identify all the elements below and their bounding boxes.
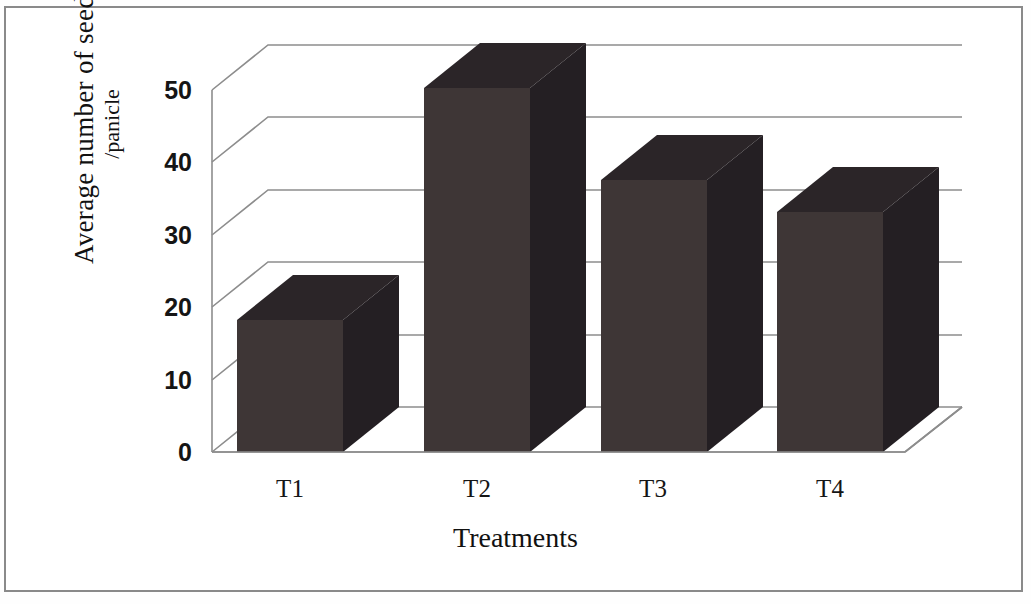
x-tick-label-t1: T1 [235,475,345,503]
y-tick-label-50: 50 [134,76,192,105]
bar-T3-front [601,180,707,452]
x-tick-label-t2: T2 [422,475,532,503]
y-axis-title-line1: Average number of seeds [69,0,99,289]
bars-group [237,43,939,452]
x-tick-label-t3: T3 [598,475,708,503]
bar-T4[interactable] [777,167,939,452]
gridline-40 [212,117,962,162]
bar-T4-side [883,167,939,452]
plot-area: Average number of seeds /panicle 50 40 3… [0,0,1031,604]
y-axis-title-line2: /panicle [99,0,125,289]
bar-T2-side [530,43,586,452]
bar-T2[interactable] [424,43,586,452]
chart-figure: Average number of seeds /panicle 50 40 3… [0,0,1031,604]
x-axis-title: Treatments [0,522,1031,554]
gridline-50 [212,45,962,90]
y-axis-title: Average number of seeds /panicle [69,0,133,289]
bar-T1-front [237,320,343,452]
y-tick-label-30: 30 [134,221,192,250]
bar-T4-front [777,212,883,452]
bar-T3[interactable] [601,135,763,452]
y-tick-label-40: 40 [134,148,192,177]
x-tick-label-t4: T4 [775,475,885,503]
y-tick-label-0: 0 [134,438,192,467]
y-tick-label-20: 20 [134,293,192,322]
bar-T2-front [424,88,530,452]
bar-T3-side [707,135,763,452]
bar-T1[interactable] [237,275,399,452]
y-tick-label-10: 10 [134,366,192,395]
